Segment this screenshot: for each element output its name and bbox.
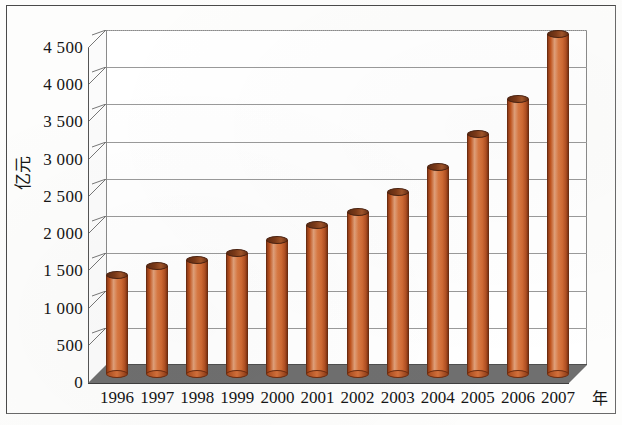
bar-top-ellipse	[266, 236, 288, 244]
y-tick-label-text: 4 500	[43, 39, 83, 56]
y-tick-label-text: 1 000	[43, 300, 83, 317]
plot-area: 05001 0001 5002 0002 5003 0003 5004 0004…	[0, 0, 622, 425]
chart-left-wall	[88, 30, 106, 383]
bar	[226, 253, 248, 374]
bar	[507, 99, 529, 374]
bar-base-ellipse	[427, 370, 449, 378]
bar	[106, 275, 128, 374]
bar-base-ellipse	[507, 370, 529, 378]
x-axis-title: 年	[592, 389, 608, 409]
bar-base-ellipse	[146, 370, 168, 378]
bar-top-ellipse	[106, 271, 128, 279]
y-axis-title: 亿元	[14, 156, 32, 190]
bar-base-ellipse	[547, 370, 569, 378]
bar-top-ellipse	[547, 30, 569, 38]
bar	[186, 260, 208, 374]
y-tick-label-text: 4 000	[43, 76, 83, 93]
bar	[266, 240, 288, 374]
bar-top-ellipse	[467, 130, 489, 138]
bar	[547, 34, 569, 374]
bar-base-ellipse	[467, 370, 489, 378]
bar-base-ellipse	[387, 370, 409, 378]
bar-base-ellipse	[347, 370, 369, 378]
y-tick-label-text: 3 500	[43, 113, 83, 130]
y-tick-label-text: 2 500	[43, 188, 83, 205]
y-axis-line	[88, 48, 89, 383]
x-axis-tick-labels: 1996199719981999200020012002200320042005…	[0, 388, 622, 414]
chart-floor-front-edge	[88, 383, 569, 384]
bar	[306, 225, 328, 374]
bar-base-ellipse	[186, 370, 208, 378]
bar-top-ellipse	[186, 256, 208, 264]
y-tick-label-text: 500	[57, 337, 83, 354]
y-axis-tick-labels: 05001 0001 5002 0002 5003 0003 5004 0004…	[0, 0, 83, 425]
bar-top-ellipse	[347, 208, 369, 216]
bar-top-ellipse	[507, 95, 529, 103]
bar-top-ellipse	[387, 188, 409, 196]
bar-top-ellipse	[306, 221, 328, 229]
y-tick-label-text: 2 000	[43, 225, 83, 242]
y-tick-label-text: 3 000	[43, 151, 83, 168]
bar	[347, 212, 369, 374]
bar-top-ellipse	[427, 163, 449, 171]
gridline	[106, 30, 587, 31]
bar	[427, 167, 449, 374]
bar-top-ellipse	[226, 249, 248, 257]
bar	[387, 192, 409, 374]
bar-top-ellipse	[146, 262, 168, 270]
chart-figure: 05001 0001 5002 0002 5003 0003 5004 0004…	[0, 0, 622, 425]
gridline	[106, 67, 587, 68]
y-tick-label-text: 1 500	[43, 262, 83, 279]
bar	[146, 266, 168, 374]
bar-base-ellipse	[106, 370, 128, 378]
bar	[467, 134, 489, 374]
x-tick-label: 2007	[534, 388, 582, 408]
